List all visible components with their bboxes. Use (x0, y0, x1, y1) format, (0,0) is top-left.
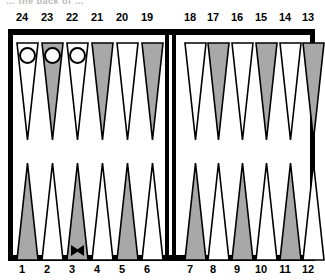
point-triangle-15 (255, 42, 278, 141)
checker-point-23[interactable] (44, 47, 61, 64)
point-label-top-15: 15 (252, 10, 270, 24)
point-label-top-24: 24 (13, 10, 31, 24)
point-label-top-19: 19 (138, 10, 156, 24)
point-triangle-14 (279, 42, 302, 141)
bottom-point-number-row: 123456789101112 (0, 262, 322, 276)
board-playing-area (13, 35, 310, 255)
point-triangle-20 (116, 42, 139, 141)
point-21 (91, 42, 114, 141)
point-19 (141, 42, 164, 141)
center-bar (165, 35, 176, 255)
point-triangle-8 (207, 162, 230, 261)
point-label-top-22: 22 (63, 10, 81, 24)
x-mark-icon (70, 244, 85, 257)
checker-point-24[interactable] (19, 47, 36, 64)
point-triangle-2 (41, 162, 64, 261)
point-11 (279, 162, 302, 261)
point-label-top-14: 14 (276, 10, 294, 24)
point-12 (302, 162, 325, 261)
point-label-bottom-1: 1 (13, 262, 31, 276)
point-10 (255, 162, 278, 261)
point-label-bottom-3: 3 (63, 262, 81, 276)
point-label-bottom-4: 4 (88, 262, 106, 276)
point-8 (207, 162, 230, 261)
figure-caption: … the back of … (6, 0, 84, 4)
point-label-top-17: 17 (204, 10, 222, 24)
point-triangle-9 (231, 162, 254, 261)
point-label-bottom-5: 5 (113, 262, 131, 276)
point-triangle-17 (207, 42, 230, 141)
point-triangle-7 (184, 162, 207, 261)
point-14 (279, 42, 302, 141)
point-5 (116, 162, 139, 261)
point-7 (184, 162, 207, 261)
point-16 (231, 42, 254, 141)
point-label-top-18: 18 (181, 10, 199, 24)
point-triangle-4 (91, 162, 114, 261)
point-triangle-13 (302, 42, 325, 141)
point-4 (91, 162, 114, 261)
point-label-bottom-8: 8 (204, 262, 222, 276)
point-13 (302, 42, 325, 141)
point-18 (184, 42, 207, 141)
point-label-bottom-2: 2 (38, 262, 56, 276)
point-6 (141, 162, 164, 261)
point-1 (16, 162, 39, 261)
point-15 (255, 42, 278, 141)
point-label-top-20: 20 (113, 10, 131, 24)
point-triangle-12 (302, 162, 325, 261)
point-label-top-13: 13 (299, 10, 317, 24)
backgammon-board (8, 29, 315, 261)
point-label-bottom-10: 10 (252, 262, 270, 276)
point-label-bottom-7: 7 (181, 262, 199, 276)
point-triangle-1 (16, 162, 39, 261)
marker-point-3[interactable] (70, 244, 85, 257)
point-9 (231, 162, 254, 261)
point-label-bottom-6: 6 (138, 262, 156, 276)
point-triangle-5 (116, 162, 139, 261)
point-triangle-19 (141, 42, 164, 141)
point-label-bottom-9: 9 (228, 262, 246, 276)
point-triangle-18 (184, 42, 207, 141)
point-17 (207, 42, 230, 141)
point-label-top-21: 21 (88, 10, 106, 24)
point-label-bottom-11: 11 (276, 262, 294, 276)
point-triangle-21 (91, 42, 114, 141)
point-label-top-23: 23 (38, 10, 56, 24)
top-point-number-row: 242322212019181716151413 (0, 10, 322, 24)
point-triangle-11 (279, 162, 302, 261)
point-triangle-16 (231, 42, 254, 141)
point-label-top-16: 16 (228, 10, 246, 24)
point-triangle-10 (255, 162, 278, 261)
point-triangle-6 (141, 162, 164, 261)
point-label-bottom-12: 12 (299, 262, 317, 276)
point-2 (41, 162, 64, 261)
point-20 (116, 42, 139, 141)
checker-point-22[interactable] (69, 47, 86, 64)
